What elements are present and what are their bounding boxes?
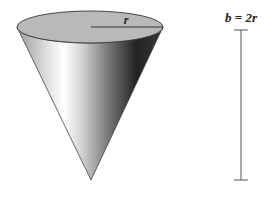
- cone-diagram: r b = 2r: [0, 0, 276, 200]
- cone-surface: [17, 27, 163, 180]
- radius-label: r: [124, 13, 129, 27]
- scale-bar-label: b = 2r: [225, 10, 258, 25]
